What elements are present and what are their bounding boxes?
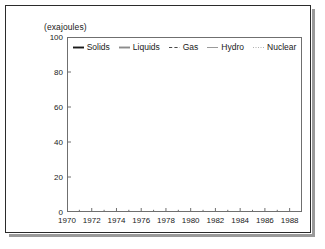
legend-label: Solids <box>87 42 110 52</box>
x-tick-label: 1974 <box>108 216 126 225</box>
plot-border <box>67 37 302 212</box>
legend-item-gas[interactable]: Gas <box>169 42 199 52</box>
y-tick-label: 60 <box>39 103 63 112</box>
legend-item-hydro[interactable]: Hydro <box>207 42 244 52</box>
x-tick-label: 1970 <box>58 216 76 225</box>
x-tick-label: 1978 <box>157 216 175 225</box>
x-tick-label: 1988 <box>281 216 299 225</box>
legend-label: Gas <box>183 42 199 52</box>
plot-area <box>67 37 302 212</box>
chart-legend: SolidsLiquidsGasHydroNuclear <box>67 40 302 54</box>
legend-item-nuclear[interactable]: Nuclear <box>253 42 296 52</box>
x-tick-label: 1972 <box>83 216 101 225</box>
legend-label: Nuclear <box>267 42 296 52</box>
legend-marker-nuclear-icon <box>253 44 264 51</box>
legend-marker-hydro-icon <box>207 44 218 51</box>
y-axis-unit-label: (exajoules) <box>44 22 87 32</box>
legend-item-solids[interactable]: Solids <box>73 42 110 52</box>
legend-item-liquids[interactable]: Liquids <box>119 42 160 52</box>
y-tick-label: 100 <box>39 33 63 42</box>
x-tick-label: 1980 <box>182 216 200 225</box>
x-tick-label: 1982 <box>207 216 225 225</box>
x-tick-label: 1984 <box>231 216 249 225</box>
legend-label: Hydro <box>221 42 244 52</box>
x-tick-label: 1986 <box>256 216 274 225</box>
y-axis-tick-labels: 020406080100 <box>37 37 63 212</box>
legend-marker-gas-icon <box>169 44 180 51</box>
legend-marker-solids-icon <box>73 44 84 51</box>
y-tick-label: 20 <box>39 173 63 182</box>
frame-shadow-right <box>312 9 315 237</box>
legend-label: Liquids <box>133 42 160 52</box>
chart-frame: (exajoules) 020406080100 SolidsLiquidsGa… <box>5 5 311 233</box>
legend-marker-liquids-icon <box>119 44 130 51</box>
frame-shadow-bottom <box>9 234 315 237</box>
x-axis-tick-labels: 1970197219741976197819801982198419861988 <box>67 216 302 230</box>
y-tick-label: 40 <box>39 138 63 147</box>
y-tick-label: 80 <box>39 68 63 77</box>
x-tick-label: 1976 <box>132 216 150 225</box>
